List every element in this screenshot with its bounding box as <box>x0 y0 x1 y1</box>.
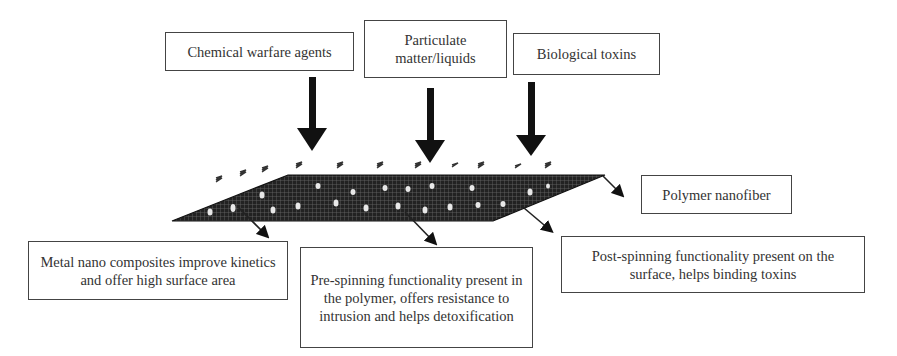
label-chemical-warfare-agents: Chemical warfare agents <box>165 32 354 71</box>
arrow-chemical-down-icon <box>297 77 327 151</box>
polymer-nanofiber-sheet <box>172 175 605 221</box>
leader-arrow-polymer-icon <box>603 176 621 194</box>
annotation-metal-nano-composites: Metal nano composites improve kinetics a… <box>28 241 288 300</box>
nanofiber-protection-diagram: Chemical warfare agents Particulate matt… <box>0 0 897 356</box>
label-polymer-nanofiber: Polymer nanofiber <box>641 175 792 214</box>
arrow-particulate-down-icon <box>415 88 445 163</box>
annotation-post-spinning-functionality: Post-spinning functionality present on t… <box>561 236 865 293</box>
label-biological-toxins: Biological toxins <box>513 33 660 75</box>
annotation-pre-spinning-functionality: Pre-spinning functionality present in th… <box>300 247 533 348</box>
arrow-biological-down-icon <box>516 82 546 156</box>
leader-arrow-post-spinning-icon <box>524 208 550 230</box>
label-particulate-matter: Particulate matter/liquids <box>364 20 507 78</box>
